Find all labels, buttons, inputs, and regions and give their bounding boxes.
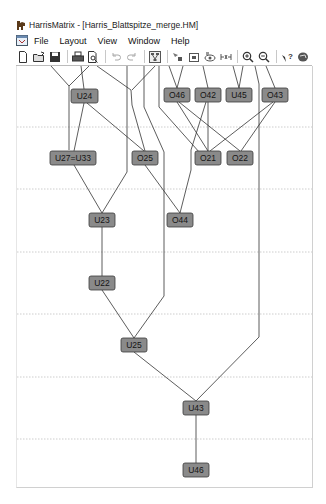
node-O22[interactable]: O22	[227, 151, 253, 165]
svg-text:U46: U46	[188, 465, 204, 475]
new-document-button[interactable]	[16, 50, 30, 64]
node-properties-button[interactable]	[187, 50, 201, 64]
redo-button[interactable]	[125, 50, 139, 64]
print-preview-icon	[87, 51, 99, 63]
open-button[interactable]	[32, 50, 46, 64]
svg-text:O46: O46	[169, 90, 185, 100]
toolbar-separator	[276, 50, 277, 63]
save-icon	[49, 51, 61, 63]
layout-button[interactable]	[148, 50, 162, 64]
undo-button[interactable]	[109, 50, 123, 64]
help-icon: ?	[281, 51, 293, 63]
node-O21[interactable]: O21	[195, 151, 221, 165]
svg-text:?: ?	[288, 52, 293, 61]
window-title: HarrisMatrix - [Harris_Blattspitze_merge…	[29, 20, 198, 30]
svg-text:O43: O43	[267, 90, 283, 100]
select-node-button[interactable]	[171, 50, 185, 64]
menu-layout[interactable]: Layout	[60, 36, 87, 46]
svg-text:U43: U43	[188, 403, 204, 413]
print-button[interactable]	[71, 50, 85, 64]
document-window-icon[interactable]	[16, 35, 28, 46]
new-document-icon	[17, 51, 29, 63]
node-O44[interactable]: O44	[167, 213, 193, 227]
toolbar-separator	[237, 50, 238, 63]
svg-text:O42: O42	[200, 90, 216, 100]
menu-view[interactable]: View	[98, 36, 117, 46]
print-preview-button[interactable]	[86, 50, 100, 64]
open-folder-icon	[33, 51, 45, 63]
svg-text:O25: O25	[137, 153, 153, 163]
svg-text:U25: U25	[126, 340, 142, 350]
toolbar: ?	[16, 48, 312, 66]
harris-matrix-graph: U24 O46 O42 U45 O43 U27=U33 O25 O21	[17, 66, 312, 487]
view-button[interactable]	[203, 50, 217, 64]
node-U27-U33[interactable]: U27=U33	[50, 151, 96, 165]
redo-icon	[126, 51, 138, 63]
harris-matrix-app-icon	[16, 20, 26, 31]
merge-icon	[220, 51, 232, 63]
harris-matrix-canvas[interactable]: U24 O46 O42 U45 O43 U27=U33 O25 O21	[16, 66, 313, 488]
node-U46[interactable]: U46	[183, 463, 209, 477]
svg-text:U24: U24	[77, 91, 93, 101]
zoom-in-button[interactable]	[241, 50, 255, 64]
toolbar-separator	[67, 50, 68, 63]
context-help-button[interactable]: ?	[280, 50, 294, 64]
svg-text:O44: O44	[172, 215, 188, 225]
node-O42[interactable]: O42	[195, 88, 221, 102]
select-node-icon	[172, 51, 184, 63]
node-U45[interactable]: U45	[226, 88, 252, 102]
print-icon	[72, 51, 84, 63]
node-U22[interactable]: U22	[89, 276, 115, 290]
zoom-in-icon	[242, 51, 254, 63]
toolbar-separator	[167, 50, 168, 63]
svg-text:O22: O22	[232, 153, 248, 163]
node-U23[interactable]: U23	[89, 213, 115, 227]
node-O43[interactable]: O43	[262, 88, 288, 102]
svg-text:U23: U23	[94, 215, 110, 225]
svg-text:O21: O21	[200, 153, 216, 163]
node-O25[interactable]: O25	[132, 151, 158, 165]
menu-window[interactable]: Window	[128, 36, 160, 46]
toolbar-separator	[105, 50, 106, 63]
menu-help[interactable]: Help	[171, 36, 190, 46]
window-titlebar: HarrisMatrix - [Harris_Blattspitze_merge…	[16, 17, 312, 33]
toolbar-separator	[144, 50, 145, 63]
svg-text:U22: U22	[94, 278, 110, 288]
save-button[interactable]	[48, 50, 62, 64]
layout-icon	[149, 51, 161, 63]
menubar: File Layout View Window Help	[16, 33, 312, 48]
about-icon	[297, 51, 309, 63]
node-properties-icon	[188, 51, 200, 63]
node-U43[interactable]: U43	[183, 401, 209, 415]
zoom-out-button[interactable]	[257, 50, 271, 64]
row-gridlines	[17, 127, 312, 439]
node-O46[interactable]: O46	[164, 88, 190, 102]
menu-file[interactable]: File	[34, 36, 49, 46]
node-U24[interactable]: U24	[71, 89, 98, 103]
view-icon	[204, 51, 216, 63]
zoom-out-icon	[258, 51, 270, 63]
about-button[interactable]	[296, 50, 310, 64]
stratigraphic-edges	[51, 66, 275, 463]
undo-icon	[110, 51, 122, 63]
svg-text:U27=U33: U27=U33	[55, 153, 91, 163]
node-U25[interactable]: U25	[121, 338, 147, 352]
svg-text:U45: U45	[231, 90, 247, 100]
merge-button[interactable]	[219, 50, 233, 64]
